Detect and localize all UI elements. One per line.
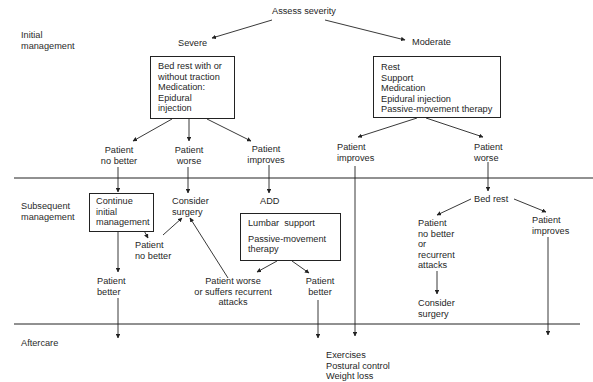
add-outcome-better: Patient better	[302, 276, 338, 297]
bed-rest-outcome-no-better: Patient no better or recurrent attacks	[418, 218, 455, 271]
severe-outcome-no-better: Patient no better	[100, 145, 138, 166]
continue-outcome-no-better: Patient no better	[135, 240, 171, 261]
moderate-treatment-text: Rest Support Medication Epidural injecti…	[381, 62, 500, 115]
aftercare-list: Exercises Postural control Weight loss	[326, 350, 390, 382]
bed-rest-node: Bed rest	[474, 194, 508, 205]
moderate-node: Moderate	[412, 37, 451, 48]
add-treatment-passive: Passive-movement therapy	[248, 234, 340, 255]
section-label-subsequent-management: Subsequent management	[21, 201, 75, 222]
severe-outcome-worse: Patient worse	[170, 145, 208, 166]
add-outcome-worse: Patient worse or suffers recurrent attac…	[182, 276, 284, 308]
continue-initial-management-text: Continue initial management	[96, 196, 153, 228]
continue-initial-management-box: Continue initial management	[89, 193, 154, 232]
add-treatment-lumbar: Lumbar support	[248, 218, 340, 229]
section-label-aftercare: Aftercare	[21, 338, 58, 349]
moderate-outcome-worse: Patient worse	[474, 142, 503, 163]
continue-outcome-better: Patient better	[97, 276, 126, 297]
severe-node: Severe	[178, 38, 207, 49]
severe-treatment-box: Bed rest with or without traction Medica…	[150, 56, 235, 119]
severe-outcome-improves: Patient improves	[244, 144, 288, 165]
moderate-outcome-improves: Patient improves	[337, 142, 374, 163]
consider-surgery-node-1: Consider surgery	[172, 196, 209, 217]
bed-rest-outcome-improves: Patient improves	[532, 215, 569, 236]
assess-severity-node: Assess severity	[272, 6, 336, 17]
section-label-initial-management: Initial management	[21, 30, 75, 51]
severe-treatment-text: Bed rest with or without traction Medica…	[158, 61, 234, 114]
add-treatment-box: Lumbar support Passive-movement therapy	[240, 213, 341, 261]
moderate-treatment-box: Rest Support Medication Epidural injecti…	[373, 56, 501, 118]
consider-surgery-node-2: Consider surgery	[418, 298, 455, 319]
add-label: ADD	[260, 196, 279, 207]
